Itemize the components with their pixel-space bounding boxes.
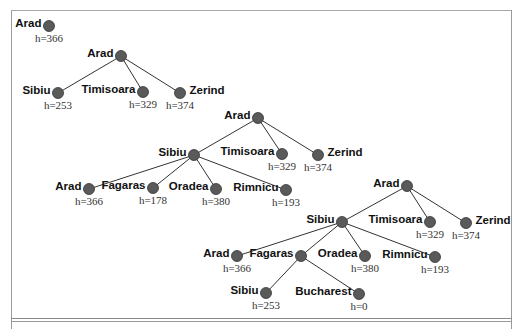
node-circle-icon <box>116 51 127 62</box>
node-label: Fagaras <box>101 179 145 191</box>
tree-node: Zerindh=374 <box>166 84 225 111</box>
node-circle-icon <box>253 113 264 124</box>
node-circle-icon <box>430 252 441 263</box>
tree-node: Zerindh=374 <box>304 146 363 173</box>
heuristic-value: h=193 <box>421 263 450 275</box>
node-label: Oradea <box>318 247 358 259</box>
heuristic-value: h=366 <box>223 262 252 274</box>
node-label: Zerind <box>476 214 511 226</box>
heuristic-value: h=253 <box>44 99 73 111</box>
node-label: Timisoara <box>81 83 136 95</box>
tree-node: Timisoarah=329 <box>220 145 296 172</box>
heuristic-value: h=374 <box>452 229 481 241</box>
node-label: Arad <box>87 47 113 59</box>
node-circle-icon <box>261 288 272 299</box>
node-label: Oradea <box>169 180 209 192</box>
tree-node: Arad <box>224 109 263 124</box>
node-label: Rimnicu <box>382 248 427 260</box>
node-label: Fagaras <box>249 247 293 259</box>
node-label: Sibiu <box>158 146 186 158</box>
tree-node: Rimnicuh=193 <box>233 181 300 208</box>
tree-node: Rimnicuh=193 <box>382 248 449 275</box>
heuristic-value: h=380 <box>351 262 380 274</box>
node-circle-icon <box>281 185 292 196</box>
node-label: Sibiu <box>306 213 334 225</box>
tree-node: Oradeah=380 <box>169 180 231 207</box>
node-label: Timisoara <box>220 145 275 157</box>
node-label: Arad <box>224 109 250 121</box>
node-label: Timisoara <box>368 213 423 225</box>
tree-canvas: Aradh=366AradSibiuh=253Timisoarah=329Zer… <box>0 0 518 329</box>
heuristic-value: h=329 <box>129 98 158 110</box>
node-label: Zerind <box>190 84 225 96</box>
heuristic-value: h=329 <box>416 228 445 240</box>
tree-node: Aradh=366 <box>15 17 63 44</box>
tree-stage-4: AradSibiuTimisoarah=329Zerindh=374Aradh=… <box>203 177 510 312</box>
tree-stage-3: AradSibiuTimisoarah=329Zerindh=374Aradh=… <box>55 109 362 208</box>
heuristic-value: h=193 <box>272 196 301 208</box>
tree-node: Fagaras <box>249 247 306 262</box>
heuristic-value: h=366 <box>35 32 64 44</box>
tree-node: Oradeah=380 <box>318 247 380 274</box>
heuristic-value: h=253 <box>252 299 281 311</box>
node-label: Sibiu <box>230 284 258 296</box>
tree-node: Arad <box>87 47 126 62</box>
node-circle-icon <box>189 150 200 161</box>
heuristic-value: h=380 <box>202 195 231 207</box>
tree-node: Zerindh=374 <box>452 214 511 241</box>
heuristic-value: h=329 <box>268 160 297 172</box>
node-label: Sibiu <box>22 84 50 96</box>
heuristic-value: h=374 <box>166 99 195 111</box>
node-label: Arad <box>15 17 41 29</box>
node-circle-icon <box>211 184 222 195</box>
tree-stage-2: AradSibiuh=253Timisoarah=329Zerindh=374 <box>22 47 224 111</box>
node-circle-icon <box>360 251 371 262</box>
node-label: Bucharest <box>295 285 351 297</box>
tree-node: Sibiu <box>158 146 199 161</box>
node-label: Zerind <box>328 146 363 158</box>
node-circle-icon <box>138 87 149 98</box>
search-tree-diagram: Aradh=366AradSibiuh=253Timisoarah=329Zer… <box>0 0 518 329</box>
node-circle-icon <box>337 217 348 228</box>
node-label: Arad <box>55 180 81 192</box>
heuristic-value: h=0 <box>350 300 368 312</box>
node-circle-icon <box>277 149 288 160</box>
node-circle-icon <box>296 251 307 262</box>
node-label: Arad <box>373 177 399 189</box>
node-circle-icon <box>425 217 436 228</box>
node-circle-icon <box>313 150 324 161</box>
node-circle-icon <box>84 184 95 195</box>
tree-node: Sibiuh=253 <box>22 84 72 111</box>
node-circle-icon <box>148 183 159 194</box>
node-circle-icon <box>402 181 413 192</box>
node-label: Rimnicu <box>233 181 278 193</box>
tree-node: Fagarash=178 <box>101 179 167 206</box>
node-label: Arad <box>203 247 229 259</box>
node-circle-icon <box>461 218 472 229</box>
tree-node: Bucharesth=0 <box>295 285 368 312</box>
tree-node: Timisoarah=329 <box>81 83 157 110</box>
tree-node: Sibiu <box>306 213 347 228</box>
node-circle-icon <box>354 289 365 300</box>
tree-node: Aradh=366 <box>203 247 251 274</box>
tree-node: Sibiuh=253 <box>230 284 280 311</box>
tree-node: Arad <box>373 177 412 192</box>
heuristic-value: h=374 <box>304 161 333 173</box>
node-circle-icon <box>53 88 64 99</box>
tree-stage-1: Aradh=366 <box>15 17 63 44</box>
node-circle-icon <box>232 251 243 262</box>
node-circle-icon <box>44 21 55 32</box>
heuristic-value: h=366 <box>75 195 104 207</box>
node-circle-icon <box>175 88 186 99</box>
tree-node: Aradh=366 <box>55 180 103 207</box>
heuristic-value: h=178 <box>139 194 168 206</box>
